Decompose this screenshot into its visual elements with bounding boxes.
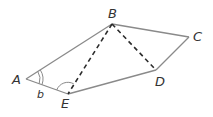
angle-arc-e xyxy=(57,82,74,90)
edge-cd xyxy=(156,37,189,70)
edge-bc xyxy=(112,24,189,37)
label-e: E xyxy=(61,96,70,111)
label-d: D xyxy=(155,74,165,89)
label-c: C xyxy=(193,29,203,44)
angle-label-b: b xyxy=(37,88,44,101)
edge-ea xyxy=(26,79,68,94)
edge-ab xyxy=(26,24,112,79)
angle-arc-a xyxy=(38,70,43,85)
label-b: B xyxy=(108,6,117,21)
label-a: A xyxy=(11,72,21,87)
pentagon-diagram: A B C D E b xyxy=(0,0,213,117)
dashed-edges xyxy=(68,24,156,94)
